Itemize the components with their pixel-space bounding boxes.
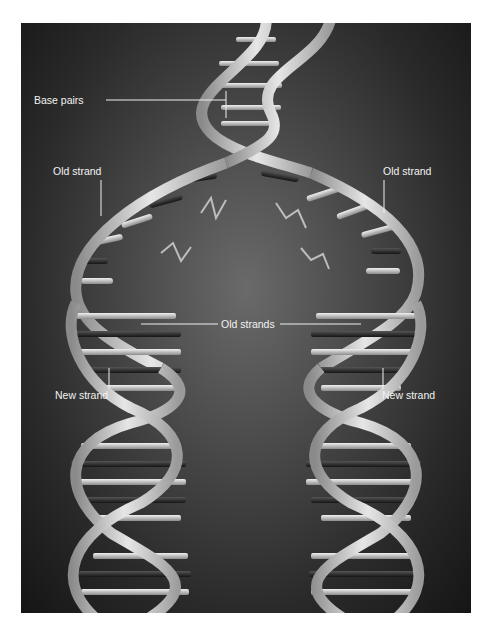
label-base-pairs: Base pairs <box>34 94 84 106</box>
parent-helix-strands <box>202 23 331 173</box>
dna-replication-diagram: Base pairs Old strand Old strand Old str… <box>21 23 471 613</box>
label-old-strand-right: Old strand <box>383 165 431 177</box>
callout-lines <box>101 91 384 389</box>
label-old-strands: Old strands <box>221 318 275 330</box>
label-old-strand-left: Old strand <box>53 165 101 177</box>
label-new-strand-right: New strand <box>382 389 435 401</box>
label-new-strand-left: New strand <box>55 389 108 401</box>
old-strands-separating <box>76 163 419 368</box>
